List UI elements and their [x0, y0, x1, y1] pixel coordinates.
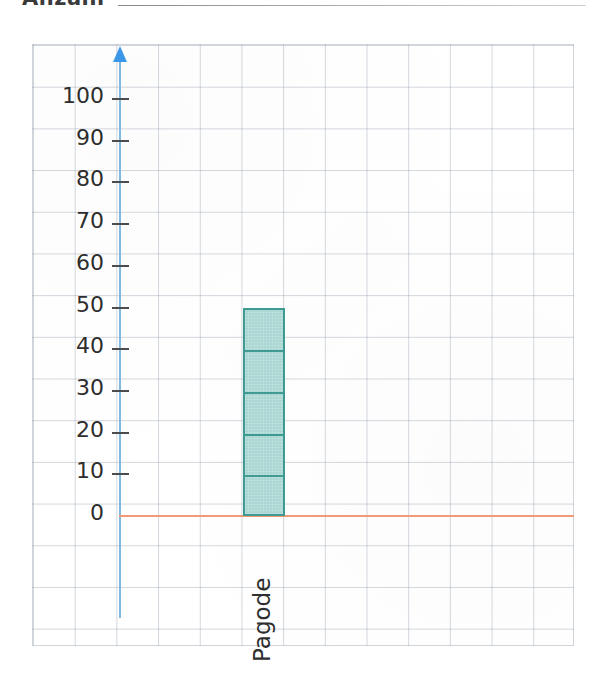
y-axis-tick [112, 98, 129, 100]
y-axis-tick-label: 30 [34, 375, 104, 400]
y-axis-tick [112, 181, 129, 183]
y-axis-tick [112, 432, 129, 434]
y-axis-tick [112, 348, 129, 350]
y-axis-tick-label: 80 [34, 166, 104, 191]
y-axis-tick [112, 473, 129, 475]
x-axis-line [119, 515, 574, 517]
y-axis-tick-label: 60 [34, 250, 104, 275]
y-axis-tick [112, 307, 129, 309]
y-axis-tick-label: 40 [34, 333, 104, 358]
page-title: Anzahl [22, 0, 105, 10]
bar-segment-divider [245, 475, 283, 477]
x-axis-category-label: Pagode [249, 578, 275, 662]
bar-segment-divider [245, 392, 283, 394]
bar-segment-divider [245, 434, 283, 436]
y-axis-tick-label: 10 [34, 458, 104, 483]
y-axis-tick [112, 140, 129, 142]
y-axis-line [119, 58, 121, 618]
y-axis-tick-label: 70 [34, 208, 104, 233]
y-axis-tick-label: 100 [34, 83, 104, 108]
y-axis-tick [112, 223, 129, 225]
header-strip: Anzahl [0, 0, 598, 16]
y-axis-tick-label: 50 [34, 292, 104, 317]
header-rule [118, 5, 586, 6]
y-axis-tick-label: 0 [34, 500, 104, 525]
y-axis-tick-label: 20 [34, 417, 104, 442]
y-axis-tick [112, 265, 129, 267]
y-axis-arrow-icon [113, 46, 127, 62]
bar [243, 308, 285, 517]
bar-chart-plot: 1009080706050403020100 Pagode [32, 44, 574, 646]
bar-texture [245, 310, 283, 515]
y-axis-tick [112, 390, 129, 392]
bar-segment-divider [245, 350, 283, 352]
y-axis-tick-label: 90 [34, 125, 104, 150]
